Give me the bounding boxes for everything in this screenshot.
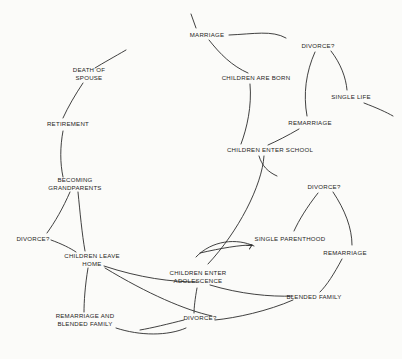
edge-remarriage1-to-school: [268, 129, 299, 145]
edge-leave-home-to-remarriage-bl: [84, 268, 88, 312]
edge-death-to-retirement: [63, 83, 83, 118]
edge-marriage-to-divorce1: [229, 33, 286, 38]
edge-marriage-to-children-born: [209, 40, 248, 73]
family-life-cycle-diagram: MARRIAGEDIVORCE?CHILDREN ARE BORNSINGLE …: [0, 0, 402, 359]
edge-blended-bottom-arc: [215, 300, 293, 320]
edge-marriage-top-return: [95, 50, 126, 68]
edges-group: [47, 14, 393, 334]
edge-remarriage-bl-to-bottom: [116, 328, 186, 334]
edge-into-marriage: [191, 14, 196, 28]
edge-divorce3-to-leave-home: [51, 240, 76, 252]
edge-left-arc-to-single-parent: [200, 245, 252, 253]
edge-divorce1-to-single-life: [331, 51, 347, 90]
edge-grandparents-to-divorce3: [47, 192, 70, 233]
edge-divorce2-to-single-parent: [294, 193, 318, 231]
diagram-edges-layer: [0, 0, 402, 359]
edge-children-born-to-school: [241, 84, 250, 144]
edge-school-down-b: [208, 156, 264, 264]
edge-adol-to-blended: [210, 285, 293, 296]
edge-divorce2-to-remarriage2: [333, 192, 352, 245]
edge-leave-home-to-adol: [104, 266, 197, 282]
edge-adol-to-divorce4: [194, 288, 197, 313]
edge-divorce1-to-remarriage1: [305, 52, 315, 116]
edge-remarriage2-to-blended: [320, 259, 342, 292]
edge-grandparents-to-leave-home: [78, 192, 85, 251]
edge-retirement-to-grandparents: [61, 131, 63, 177]
edge-single-life-out: [364, 103, 393, 116]
edge-divorce4-to-bottom: [140, 320, 184, 330]
edge-school-down-a: [259, 156, 277, 176]
